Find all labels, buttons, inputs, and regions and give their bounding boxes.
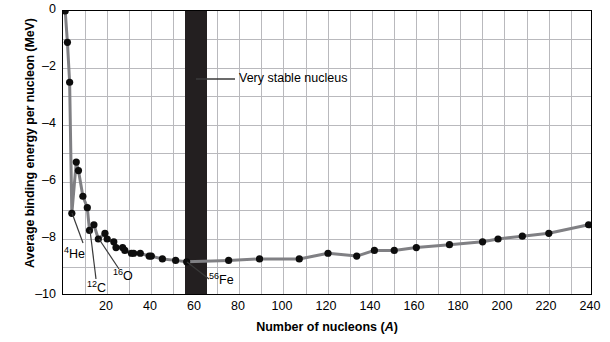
x-tick-text: 220 <box>536 299 557 313</box>
x-axis-title-suffix: ) <box>394 320 398 334</box>
label-c12: 12C <box>87 279 106 295</box>
x-tick-label-200: 200 <box>482 299 522 313</box>
label-he4: 4He <box>64 245 85 261</box>
data-point <box>73 158 80 165</box>
data-layer <box>63 11 592 295</box>
x-tick-text: 200 <box>492 299 513 313</box>
y-tick-label-m6: –6 <box>0 173 56 187</box>
y-tick-text: –4 <box>42 116 56 130</box>
data-point <box>324 250 331 257</box>
data-point <box>545 230 552 237</box>
label-o16-symbol: O <box>123 269 133 283</box>
data-point <box>353 253 360 260</box>
data-point <box>585 221 592 228</box>
x-tick-label-160: 160 <box>394 299 434 313</box>
y-tick-text: –8 <box>42 230 56 244</box>
data-point <box>63 11 69 15</box>
x-tick-label-20: 20 <box>86 299 126 313</box>
data-point <box>413 244 420 251</box>
x-tick-label-180: 180 <box>438 299 478 313</box>
x-tick-label-140: 140 <box>350 299 390 313</box>
data-point <box>121 247 128 254</box>
x-tick-text: 180 <box>448 299 469 313</box>
data-point <box>66 79 73 86</box>
x-tick-label-60: 60 <box>174 299 214 313</box>
y-tick-label-m10: –10 <box>0 287 56 301</box>
label-fe56-mass: 56 <box>209 271 219 281</box>
x-tick-text: 80 <box>231 299 245 313</box>
label-fe56-symbol: Fe <box>219 273 234 287</box>
data-point <box>519 233 526 240</box>
x-tick-label-220: 220 <box>526 299 566 313</box>
data-point <box>494 235 501 242</box>
label-o16-mass: 16 <box>113 267 123 277</box>
leader-line-c12 <box>90 230 96 279</box>
x-tick-label-40: 40 <box>130 299 170 313</box>
y-tick-label-0: 0 <box>0 2 56 16</box>
chart-figure: Average binding energy per nucleon (MeV)… <box>0 0 610 342</box>
y-tick-text: –10 <box>35 287 56 301</box>
x-tick-label-240: 240 <box>570 299 610 313</box>
annotation-very-stable-nucleus: Very stable nucleus <box>239 71 347 85</box>
data-point <box>112 244 119 251</box>
x-tick-text: 120 <box>316 299 337 313</box>
y-tick-text: 0 <box>49 2 56 16</box>
y-tick-text: –6 <box>42 173 56 187</box>
data-point <box>79 193 86 200</box>
y-tick-label-m4: –4 <box>0 116 56 130</box>
x-axis-title-variable: A <box>385 320 394 334</box>
x-tick-text: 240 <box>580 299 601 313</box>
label-o16: 16O <box>113 267 133 283</box>
y-tick-label-m2: –2 <box>0 59 56 73</box>
label-c12-symbol: C <box>97 281 106 295</box>
data-point <box>104 235 111 242</box>
y-tick-text: –2 <box>42 59 56 73</box>
data-point <box>256 255 263 262</box>
x-tick-text: 100 <box>272 299 293 313</box>
data-point-group <box>63 11 592 265</box>
label-c12-mass: 12 <box>87 279 97 289</box>
data-point <box>75 167 82 174</box>
data-point <box>148 253 155 260</box>
y-axis-title: Average binding energy per nucleon (MeV) <box>23 0 37 293</box>
data-point <box>225 257 232 264</box>
plot-area: Very stable nucleus 4He 12C 16O 56Fe <box>62 10 592 295</box>
x-axis-title: Number of nucleons (A) <box>62 320 592 334</box>
data-point <box>90 221 97 228</box>
x-tick-text: 20 <box>99 299 113 313</box>
data-point <box>446 241 453 248</box>
y-tick-label-m8: –8 <box>0 230 56 244</box>
x-tick-label-100: 100 <box>262 299 302 313</box>
binding-energy-curve <box>65 11 588 262</box>
data-point <box>159 255 166 262</box>
data-point <box>479 238 486 245</box>
data-point <box>371 247 378 254</box>
x-tick-text: 140 <box>360 299 381 313</box>
label-fe56: 56Fe <box>209 271 234 287</box>
data-point <box>64 39 71 46</box>
x-tick-label-80: 80 <box>218 299 258 313</box>
x-tick-label-120: 120 <box>306 299 346 313</box>
x-tick-text: 40 <box>143 299 157 313</box>
x-tick-text: 60 <box>187 299 201 313</box>
data-point <box>172 257 179 264</box>
data-point <box>130 250 137 257</box>
label-he4-symbol: He <box>69 247 85 261</box>
data-point <box>391 247 398 254</box>
annotation-very-stable-text: Very stable nucleus <box>239 71 347 85</box>
x-tick-text: 160 <box>404 299 425 313</box>
data-point <box>137 250 144 257</box>
data-point <box>296 255 303 262</box>
leader-line-he4 <box>72 213 83 243</box>
data-point <box>84 204 91 211</box>
x-axis-title-prefix: Number of nucleons ( <box>256 320 384 334</box>
leader-line-fe56 <box>187 262 209 279</box>
